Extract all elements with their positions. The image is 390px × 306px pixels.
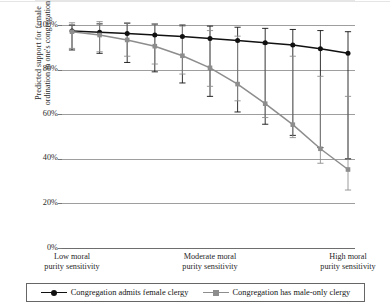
data-point-marker [235,82,240,87]
legend-key-marker [213,290,219,296]
y-tick-mark-20 [58,203,62,204]
data-point-marker [125,31,130,36]
page-rule-top [0,1,390,2]
legend-label: Congregation has male-only clergy [233,288,351,297]
y-tick-label-40: 40% [24,153,58,162]
series-canvas [62,25,355,248]
data-point-marker [153,44,158,49]
legend-label: Congregation admits female clergy [71,288,189,297]
page-rule-top-secondary [35,0,355,1]
data-point-marker [263,101,268,106]
y-tick-label-60: 60% [24,109,58,118]
legend-key-circle-icon [41,288,67,298]
data-point-marker [125,38,130,43]
y-tick-label-80: 80% [24,64,58,73]
gridline-0 [62,248,355,249]
data-point-marker [291,122,296,127]
data-point-marker [180,53,185,58]
x-axis-category-labels: Low moral purity sensitivityModerate mor… [62,252,355,278]
data-point-marker [318,46,323,51]
y-tick-label-100: 100% [24,20,58,29]
legend-item-2[interactable]: Congregation has male-only clergy [203,288,351,298]
legend-item-1[interactable]: Congregation admits female clergy [41,288,189,298]
legend-key-square-icon [203,288,229,298]
data-point-marker [180,34,185,39]
chart-legend: Congregation admits female clergyCongreg… [26,283,365,302]
data-point-marker [346,167,351,172]
y-axis-tick-labels: 0%20%40%60%80%100% [20,25,58,248]
y-tick-label-20: 20% [24,198,58,207]
y-tick-mark-40 [58,159,62,160]
data-point-marker [235,38,240,43]
y-tick-label-0: 0% [24,243,58,252]
y-tick-mark-0 [58,248,62,249]
y-tick-mark-60 [58,114,62,115]
x-axis-label-high: High moral purity sensitivity [305,252,390,273]
plot-area [62,25,355,248]
y-tick-mark-80 [58,70,62,71]
data-point-marker [97,33,102,38]
data-point-marker [208,66,213,71]
data-point-marker [290,43,295,48]
figure-root: Predicted support for female ordination … [0,0,390,306]
data-point-marker [346,51,351,56]
data-point-marker [263,40,268,45]
x-axis-label-moderate: Moderate moral purity sensitivity [167,252,253,273]
y-tick-mark-100 [58,25,62,26]
data-point-marker [318,146,323,151]
x-axis-label-low: Low moral purity sensitivity [29,252,115,273]
legend-key-marker [51,290,57,296]
data-point-marker [208,36,213,41]
data-point-marker [70,29,75,34]
data-point-marker [152,33,157,38]
